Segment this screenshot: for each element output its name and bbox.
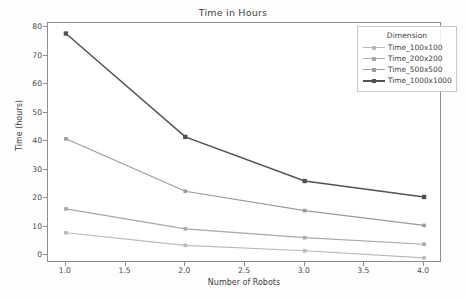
data-point-marker: [184, 189, 188, 193]
x-tick-mark: [244, 262, 245, 266]
y-tick-label: 30: [20, 164, 42, 173]
legend-item-Time_200x200[interactable]: Time_200x200: [363, 53, 451, 64]
y-tick-mark: [43, 55, 47, 56]
y-tick-mark: [43, 140, 47, 141]
x-tick-label: 1.5: [110, 266, 140, 275]
y-tick-mark: [43, 226, 47, 227]
series-Time_500x500: [64, 137, 426, 227]
series-Time_100x100: [64, 231, 426, 260]
data-point-marker: [303, 236, 307, 240]
data-point-marker: [422, 256, 426, 260]
data-point-marker: [64, 137, 68, 141]
data-point-marker: [422, 224, 426, 228]
data-point-marker: [183, 135, 187, 139]
x-tick-label: 2.0: [169, 266, 199, 275]
data-point-marker: [303, 249, 307, 253]
data-point-marker: [64, 231, 68, 235]
y-tick-label: 0: [20, 250, 42, 259]
x-tick-mark: [125, 262, 126, 266]
y-tick-label: 80: [20, 22, 42, 31]
legend-entries: Time_100x100Time_200x200Time_500x500Time…: [363, 42, 451, 86]
legend: Dimension Time_100x100Time_200x200Time_5…: [357, 26, 457, 92]
x-tick-label: 3.0: [289, 266, 319, 275]
data-point-marker: [64, 207, 68, 211]
y-tick-label: 50: [20, 107, 42, 116]
x-tick-label: 3.5: [348, 266, 378, 275]
x-tick-mark: [65, 262, 66, 266]
legend-title: Dimension: [363, 31, 451, 40]
chart-title: Time in Hours: [0, 7, 466, 18]
legend-swatch-icon: [363, 54, 385, 63]
data-point-marker: [422, 242, 426, 246]
legend-item-Time_100x100[interactable]: Time_100x100: [363, 42, 451, 53]
legend-item-Time_500x500[interactable]: Time_500x500: [363, 64, 451, 75]
x-tick-mark: [363, 262, 364, 266]
chart-figure: Time in Hours Time (hours) 0102030405060…: [0, 0, 466, 299]
x-tick-mark: [184, 262, 185, 266]
series-line: [66, 139, 424, 226]
y-tick-mark: [43, 26, 47, 27]
y-tick-mark: [43, 169, 47, 170]
x-tick-label: 4.0: [408, 266, 438, 275]
data-point-marker: [64, 31, 68, 35]
data-point-marker: [184, 244, 188, 248]
x-tick-label: 1.0: [50, 266, 80, 275]
data-point-marker: [303, 179, 307, 183]
y-tick-mark: [43, 112, 47, 113]
data-point-marker: [184, 227, 188, 231]
legend-label: Time_500x500: [385, 65, 442, 74]
data-point-marker: [422, 195, 426, 199]
legend-item-Time_1000x1000[interactable]: Time_1000x1000: [363, 75, 451, 86]
x-tick-mark: [423, 262, 424, 266]
y-tick-mark: [43, 83, 47, 84]
legend-swatch-icon: [363, 43, 385, 52]
legend-swatch-icon: [363, 65, 385, 74]
legend-label: Time_200x200: [385, 54, 442, 63]
y-tick-mark: [43, 254, 47, 255]
y-tick-mark: [43, 197, 47, 198]
y-tick-label: 70: [20, 50, 42, 59]
legend-label: Time_100x100: [385, 43, 442, 52]
y-tick-label: 10: [20, 221, 42, 230]
x-tick-label: 2.5: [229, 266, 259, 275]
x-tick-mark: [304, 262, 305, 266]
series-Time_200x200: [64, 207, 426, 246]
y-tick-label: 20: [20, 193, 42, 202]
data-point-marker: [303, 209, 307, 213]
legend-label: Time_1000x1000: [385, 76, 452, 85]
y-tick-label: 60: [20, 79, 42, 88]
y-tick-label: 40: [20, 136, 42, 145]
x-axis-label: Number of Robots: [47, 278, 441, 287]
series-line: [66, 233, 424, 258]
legend-swatch-icon: [363, 76, 385, 85]
